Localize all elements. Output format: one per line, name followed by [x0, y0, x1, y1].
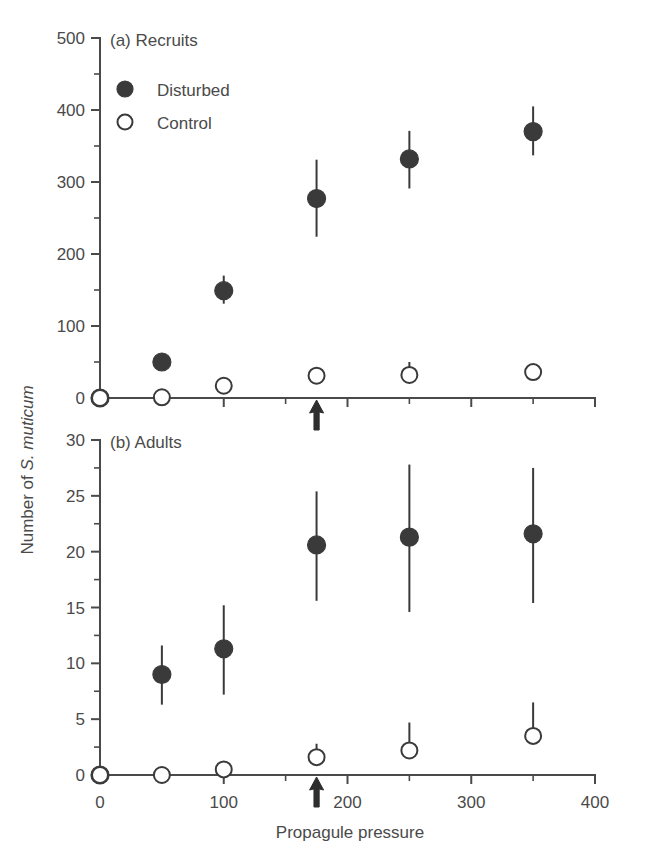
panel-a: 0100200300400500 (a) Recruits Disturbed … [57, 29, 595, 430]
panel-b-axes [91, 440, 595, 784]
panel-a-title: (a) Recruits [110, 31, 198, 50]
x-axis-tick-label: 0 [95, 793, 104, 812]
panel-b-title: (b) Adults [110, 433, 182, 452]
x-axis-tick-label: 400 [581, 793, 609, 812]
data-point [524, 106, 542, 155]
chart-svg: Number of S. muticum 0100200300400500 (a… [0, 0, 645, 864]
y-axis-tick-label: 0 [76, 766, 85, 785]
y-axis-tick-label: 500 [57, 29, 85, 48]
data-point [400, 465, 418, 612]
filled-circle-icon [215, 282, 233, 300]
up-arrow-marker [310, 400, 324, 430]
data-point [525, 702, 541, 744]
legend-label-control: Control [157, 114, 212, 133]
open-circle-icon [92, 767, 108, 783]
panel-a-arrow-annotation [310, 400, 324, 430]
data-point [309, 744, 325, 765]
y-axis-tick-label: 25 [66, 487, 85, 506]
y-axis-tick-label: 0 [76, 389, 85, 408]
filled-circle-icon [215, 640, 233, 658]
up-arrow-marker [310, 777, 324, 807]
y-axis-tick-label: 400 [57, 101, 85, 120]
figure-container: Number of S. muticum 0100200300400500 (a… [0, 0, 645, 864]
x-axis-title: Propagule pressure [276, 823, 424, 842]
y-axis-tick-label: 20 [66, 543, 85, 562]
filled-circle-icon [117, 81, 133, 97]
open-circle-icon [525, 364, 541, 380]
open-circle-icon [401, 742, 417, 758]
data-point [401, 362, 417, 383]
y-axis-tick-label: 100 [57, 317, 85, 336]
data-point [92, 767, 108, 783]
legend: Disturbed Control [117, 81, 230, 133]
svg-text:Number of S. muticum: Number of S. muticum [18, 385, 37, 554]
open-circle-icon [309, 368, 325, 384]
filled-circle-icon [524, 525, 542, 543]
panel-a-y-tick-labels: 0100200300400500 [57, 29, 85, 408]
panel-b-arrow-annotation [310, 777, 324, 807]
y-axis-tick-label: 30 [66, 431, 85, 450]
open-circle-icon [154, 389, 170, 405]
filled-circle-icon [153, 353, 171, 371]
y-axis-tick-label: 10 [66, 654, 85, 673]
data-point [154, 389, 170, 405]
panel-b-x-tick-labels: 0100200300400 [95, 793, 609, 812]
y-axis-tick-label: 300 [57, 173, 85, 192]
open-circle-icon [309, 749, 325, 765]
data-point [524, 468, 542, 603]
open-circle-icon [216, 378, 232, 394]
y-axis-tick-label: 200 [57, 245, 85, 264]
panel-a-data-points [91, 106, 542, 407]
data-point [153, 353, 171, 371]
open-circle-icon [154, 767, 170, 783]
data-point [153, 645, 171, 704]
y-axis-tick-label: 5 [76, 710, 85, 729]
open-circle-icon [525, 728, 541, 744]
filled-circle-icon [524, 123, 542, 141]
data-point [400, 131, 418, 189]
legend-item-control: Control [118, 114, 212, 133]
data-point [309, 368, 325, 384]
panel-b: 051015202530 0100200300400 (b) Adults Pr… [66, 431, 609, 842]
x-axis-tick-label: 300 [457, 793, 485, 812]
filled-circle-icon [308, 536, 326, 554]
filled-circle-icon [308, 190, 326, 208]
open-circle-icon [401, 367, 417, 383]
panel-b-data-points [91, 465, 542, 784]
x-axis-tick-label: 200 [333, 793, 361, 812]
data-point [401, 723, 417, 759]
data-point [92, 390, 108, 406]
open-circle-icon [118, 115, 133, 130]
legend-item-disturbed: Disturbed [117, 81, 230, 100]
y-axis-tick-label: 15 [66, 599, 85, 618]
x-axis-tick-label: 100 [210, 793, 238, 812]
data-point [215, 276, 233, 304]
y-axis-title: Number of S. muticum [18, 385, 37, 554]
data-point [308, 491, 326, 600]
filled-circle-icon [153, 666, 171, 684]
data-point [308, 160, 326, 237]
data-point [215, 605, 233, 694]
data-point [154, 767, 170, 783]
panel-b-y-tick-labels: 051015202530 [66, 431, 85, 785]
data-point [216, 378, 232, 394]
data-point [525, 364, 541, 380]
filled-circle-icon [400, 150, 418, 168]
y-axis-title-species: S. muticum [18, 385, 37, 470]
open-circle-icon [216, 761, 232, 777]
open-circle-icon [92, 390, 108, 406]
filled-circle-icon [400, 528, 418, 546]
legend-label-disturbed: Disturbed [157, 81, 230, 100]
data-point [216, 761, 232, 777]
y-axis-title-prefix: Number of [18, 470, 37, 554]
